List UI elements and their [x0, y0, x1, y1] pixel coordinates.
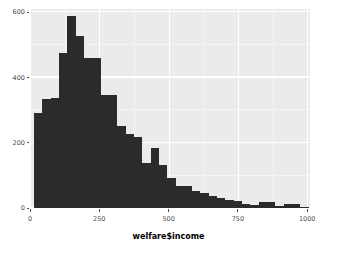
y-axis-tick-label: 400 — [13, 74, 25, 82]
histogram-bar — [167, 178, 175, 208]
histogram-bar — [126, 134, 134, 208]
x-axis-tick-mark — [168, 209, 169, 212]
histogram-bar — [234, 201, 242, 208]
histogram-bar — [76, 36, 84, 208]
histogram-bar — [92, 58, 100, 208]
histogram-bar — [42, 99, 50, 208]
histogram-bar — [34, 113, 42, 208]
x-axis-tick-label: 500 — [162, 215, 174, 223]
histogram-bar — [109, 95, 117, 208]
histogram-bar — [176, 186, 184, 209]
x-axis-tick-mark — [30, 209, 31, 212]
histogram-bar — [159, 165, 167, 208]
y-axis-tick-label: 200 — [13, 139, 25, 147]
y-axis-tick-label: 0 — [21, 204, 25, 212]
x-axis-tick-label: 0 — [28, 215, 32, 223]
histogram-bar — [267, 202, 275, 208]
x-axis-tick-mark — [307, 209, 308, 212]
gridline-minor-vertical — [273, 9, 274, 208]
histogram-bar — [84, 58, 92, 208]
histogram-bar — [192, 191, 200, 208]
gridline-major-vertical — [238, 9, 239, 208]
gridline-major-vertical — [30, 9, 31, 208]
x-axis-tick-label: 1000 — [299, 215, 316, 223]
histogram-bar — [200, 193, 208, 208]
x-axis-tick-mark — [237, 209, 238, 212]
y-axis-tick-label: 600 — [13, 8, 25, 16]
x-axis-tick-label: 250 — [93, 215, 105, 223]
histogram-bar — [292, 204, 300, 208]
histogram-bar — [209, 196, 217, 208]
histogram-bar — [51, 98, 59, 208]
histogram-plot: 0200400600 02505007501000 welfare$income — [0, 0, 337, 254]
gridline-major-vertical — [307, 9, 308, 208]
histogram-bar — [67, 16, 75, 208]
gridline-major-horizontal — [30, 11, 310, 12]
plot-panel — [30, 9, 310, 208]
histogram-bar — [59, 53, 67, 208]
histogram-bar — [151, 148, 159, 208]
histogram-bar — [101, 95, 109, 208]
histogram-bar — [275, 206, 283, 208]
y-axis-tick-mark — [27, 12, 30, 13]
histogram-bar — [184, 186, 192, 209]
x-axis-tick-label: 750 — [232, 215, 244, 223]
histogram-bar — [250, 205, 258, 208]
y-axis-tick-mark — [27, 142, 30, 143]
x-axis-tick-mark — [99, 209, 100, 212]
y-axis-tick-mark — [27, 77, 30, 78]
histogram-bar — [117, 126, 125, 208]
histogram-bar — [225, 200, 233, 208]
histogram-bar — [217, 198, 225, 208]
histogram-bar — [242, 204, 250, 208]
histogram-bar — [134, 137, 142, 208]
x-axis-label: welfare$income — [0, 232, 337, 241]
histogram-bar — [142, 163, 150, 208]
histogram-bar — [259, 202, 267, 208]
gridline-minor-vertical — [203, 9, 204, 208]
histogram-bar — [284, 204, 292, 208]
histogram-bar — [300, 207, 308, 208]
